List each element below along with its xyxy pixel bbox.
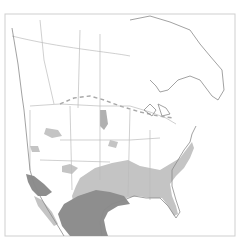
north-america-map	[0, 0, 241, 241]
range-map	[0, 0, 241, 241]
